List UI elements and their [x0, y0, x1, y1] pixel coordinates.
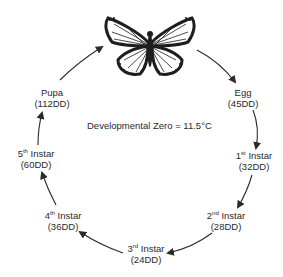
stage-dd: (32DD): [236, 161, 272, 172]
stage-3rd-instar: 3rd Instar (24DD): [127, 243, 164, 265]
arrow-pupa-to-adult: [60, 47, 102, 80]
developmental-zero-note: Developmental Zero = 11.5°C: [87, 120, 212, 131]
stage-name: Instar: [246, 150, 272, 161]
arrow-2nd-to-3rd: [168, 233, 212, 253]
stage-name: Instar: [28, 148, 54, 159]
stage-ordinal: nd: [212, 210, 219, 216]
stage-name: Egg: [228, 87, 259, 98]
stage-name: Instar: [138, 243, 164, 254]
stage-2nd-instar: 2nd Instar (28DD): [207, 210, 245, 232]
stage-dd: (112DD): [34, 98, 69, 109]
arrow-5th-to-pupa: [38, 113, 42, 145]
lifecycle-diagram: Developmental Zero = 11.5°C Egg (45DD) 1…: [0, 0, 283, 277]
stage-name: Pupa: [34, 87, 69, 98]
stage-pupa: Pupa (112DD): [34, 87, 69, 109]
stage-5th-instar: 5th Instar (60DD): [18, 148, 55, 170]
stage-1st-instar: 1st Instar (32DD): [236, 150, 272, 172]
stage-dd: (28DD): [207, 221, 245, 232]
stage-egg: Egg (45DD): [228, 87, 259, 109]
stage-name: Instar: [55, 210, 81, 221]
stage-dd: (60DD): [18, 159, 55, 170]
stage-4th-instar: 4th Instar (36DD): [45, 210, 82, 232]
stage-dd: (36DD): [45, 221, 82, 232]
arrow-egg-to-1st: [253, 110, 257, 148]
arrow-4th-to-5th: [42, 173, 56, 205]
stage-dd: (45DD): [228, 98, 259, 109]
butterfly-icon: [104, 12, 196, 78]
arrow-1st-to-2nd: [238, 175, 252, 207]
stage-name: Instar: [219, 210, 245, 221]
stage-dd: (24DD): [127, 254, 164, 265]
arrow-3rd-to-4th: [80, 232, 123, 253]
arrow-adult-to-egg: [197, 50, 235, 82]
